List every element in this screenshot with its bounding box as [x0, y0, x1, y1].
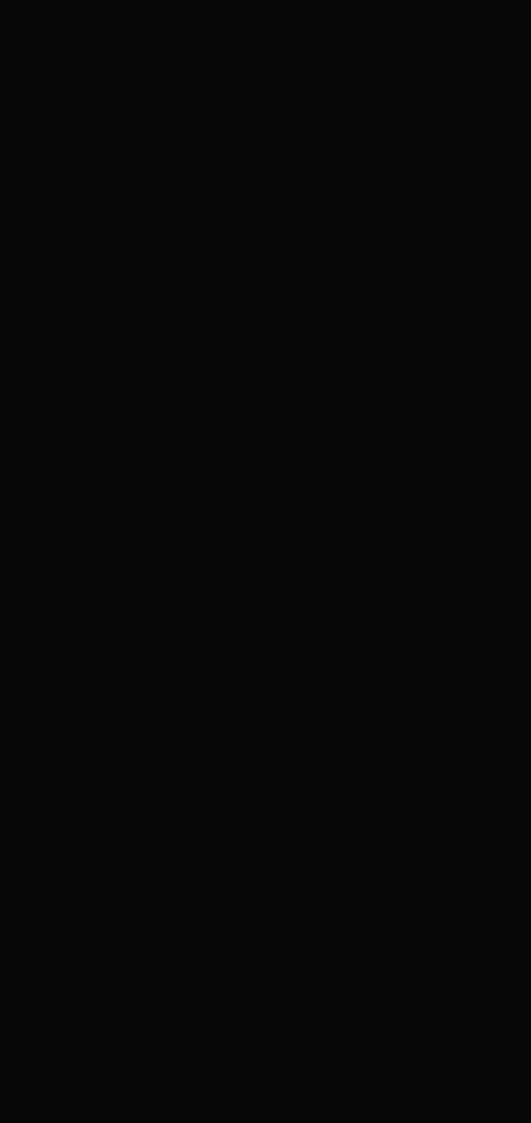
corrupted-scan-canvas — [0, 0, 531, 1123]
text-fragment-layer — [0, 0, 531, 1123]
